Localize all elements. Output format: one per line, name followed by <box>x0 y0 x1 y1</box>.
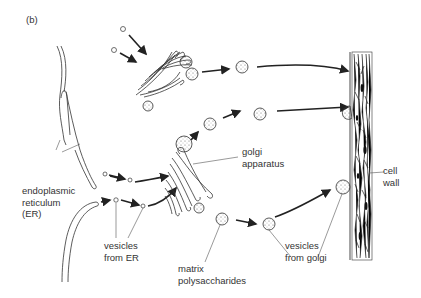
cell-wall-icon <box>350 52 372 260</box>
leader-lines <box>116 157 384 262</box>
golgi-upper-vesicles <box>143 56 248 111</box>
golgi-lower-icon <box>165 147 213 215</box>
panel-label: (b) <box>26 14 38 26</box>
flow-arrows <box>101 35 348 224</box>
diagram-canvas: (b) endoplasmicreticulum(ER) golgiappara… <box>0 0 421 298</box>
diagram-svg <box>0 0 421 298</box>
vesicles-golgi-label: vesiclesfrom golgi <box>285 240 327 263</box>
vesicles-er-label: vesiclesfrom ER <box>104 240 139 263</box>
golgi-label: golgiapparatus <box>242 146 284 169</box>
er-upper-icon <box>57 46 96 189</box>
matrix-label: matrixpolysaccharides <box>178 263 246 286</box>
cell-wall-label: cellwall <box>383 165 399 188</box>
er-label: endoplasmicreticulum(ER) <box>22 185 75 220</box>
